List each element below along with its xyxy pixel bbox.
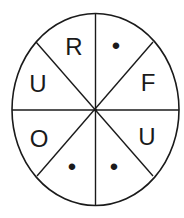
label-top-right: •: [112, 32, 120, 59]
label-top-left: R: [65, 33, 82, 60]
sector-wheel-diagram: R • F U • • O U: [0, 0, 184, 218]
label-left-upper: U: [29, 70, 46, 97]
center-point: [94, 108, 97, 111]
label-right-upper: F: [141, 69, 156, 96]
label-bottom-right: •: [110, 153, 118, 180]
label-bottom-left: •: [68, 153, 76, 180]
label-left-lower: O: [30, 125, 49, 152]
label-right-lower: U: [138, 123, 155, 150]
